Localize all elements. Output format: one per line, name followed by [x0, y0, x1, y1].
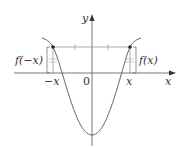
diagram-canvas: y x 0 −x x f(−x) f(x) — [0, 0, 182, 147]
y-axis-label: y — [81, 12, 89, 25]
right-bracket — [133, 47, 136, 73]
neg-x-label: −x — [44, 75, 60, 88]
x-axis-label: x — [165, 75, 172, 88]
origin-label: 0 — [83, 75, 90, 88]
left-bracket — [47, 47, 50, 73]
y-axis-arrow-icon — [90, 14, 95, 21]
right-point — [128, 45, 132, 49]
left-point — [51, 45, 55, 49]
pos-x-label: x — [126, 75, 133, 88]
even-function-diagram: y x 0 −x x f(−x) f(x) — [0, 0, 182, 147]
f-neg-x-label: f(−x) — [14, 54, 43, 67]
f-x-label: f(x) — [138, 54, 158, 67]
